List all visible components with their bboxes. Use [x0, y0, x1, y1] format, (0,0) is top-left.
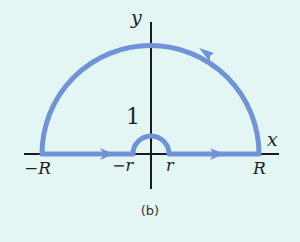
- label-one: 1: [126, 106, 140, 128]
- y-axis-label: y: [131, 8, 142, 27]
- label-neg-R: −R: [24, 160, 51, 177]
- figure-caption: (b): [0, 203, 300, 218]
- label-R: R: [253, 160, 266, 177]
- x-axis-label: x: [267, 130, 278, 149]
- label-neg-r: −r: [112, 158, 133, 174]
- label-r: r: [166, 158, 174, 174]
